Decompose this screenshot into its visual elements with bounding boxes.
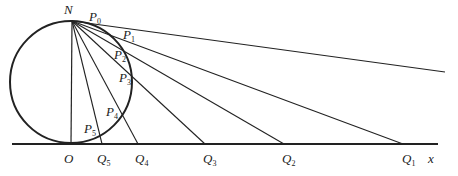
label-q3: Q3: [203, 151, 216, 168]
diameter-NO: [71, 21, 72, 144]
ray-N-q2: [72, 21, 284, 144]
diagram-canvas: P0P1P2P3P4P5 OQ5Q4Q3Q2Q1x N: [0, 0, 458, 176]
label-p3: P3: [118, 70, 131, 87]
axis-labels: OQ5Q4Q3Q2Q1x: [64, 151, 434, 168]
label-p2: P2: [113, 47, 126, 64]
stereographic-projection-diagram: P0P1P2P3P4P5 OQ5Q4Q3Q2Q1x N: [0, 0, 458, 176]
label-p4: P4: [105, 104, 118, 121]
label-q2: Q2: [282, 151, 295, 168]
label-x: x: [427, 151, 434, 166]
label-q5: Q5: [97, 151, 110, 168]
label-p0: P0: [88, 9, 101, 26]
label-q1: Q1: [402, 151, 415, 168]
label-q4: Q4: [135, 151, 148, 168]
label-o: O: [64, 151, 74, 166]
label-p5: P5: [83, 121, 96, 138]
label-N: N: [63, 2, 74, 17]
